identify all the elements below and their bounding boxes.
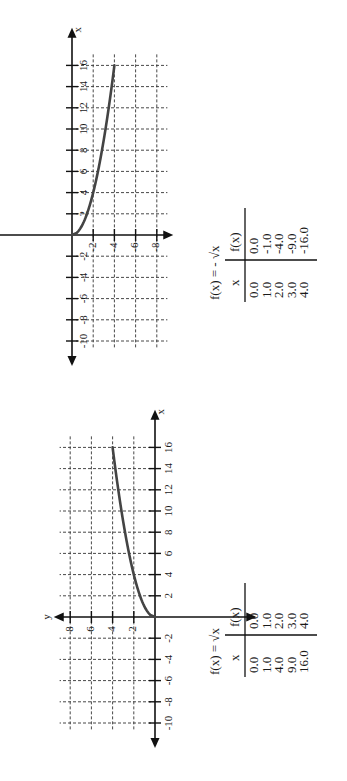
figure-canvas: xy-10-8-6-4-2246810121416-2-4-6-8 xy-10-… <box>0 0 347 781</box>
x-tick-label: 12 <box>77 102 89 113</box>
x-tick-label: 4 <box>162 571 174 577</box>
y-tick-label: -8 <box>149 242 161 252</box>
y-axis-arrow-icon <box>163 231 173 240</box>
x-axis-arrow-icon <box>68 356 77 366</box>
y-tick-label: 6 <box>84 626 96 632</box>
table-cell-fx: 4.0 <box>296 613 311 629</box>
table-cell-x: 16.0 <box>296 650 311 673</box>
equation-label: f(x) = √x <box>207 628 222 675</box>
x-tick-label: -4 <box>162 654 174 664</box>
table-positive-sqrt: f(x) = √xxf(x)0.01.04.09.016.00.01.02.03… <box>207 583 317 677</box>
x-tick-label: 6 <box>77 168 89 174</box>
y-tick-label: 2 <box>126 626 138 632</box>
x-axis-label: x <box>71 26 83 32</box>
x-tick-label: -10 <box>77 333 89 348</box>
y-tick-label: -4 <box>107 242 119 252</box>
x-tick-label: 8 <box>162 529 174 535</box>
y-axis-arrow-icon <box>54 613 64 622</box>
table-negative-sqrt: f(x) = - √xxf(x)0.01.02.03.04.00.0-1.0-4… <box>207 208 317 302</box>
equation-label: f(x) = - √x <box>207 245 222 300</box>
y-tick-label: 4 <box>105 626 117 632</box>
x-tick-label: 10 <box>162 505 174 517</box>
table-header-fx: f(x) <box>227 233 242 253</box>
y-tick-label: -6 <box>128 242 140 252</box>
table-header-fx: f(x) <box>227 608 242 628</box>
x-tick-label: -8 <box>77 315 89 325</box>
chart-positive-sqrt: xy-10-8-6-4-22468101214162468 <box>40 408 257 747</box>
x-tick-label: -4 <box>77 272 89 282</box>
x-tick-label: 14 <box>162 463 174 475</box>
x-tick-label: -6 <box>162 676 174 686</box>
x-tick-label: 6 <box>162 550 174 556</box>
x-axis-label: x <box>154 408 166 414</box>
y-axis-label: y <box>40 614 52 620</box>
x-tick-label: -10 <box>162 715 174 730</box>
x-tick-label: -8 <box>162 697 174 707</box>
x-axis-arrow-icon <box>151 738 160 748</box>
chart-negative-sqrt: xy-10-8-6-4-2246810121416-2-4-6-8 <box>0 26 173 365</box>
x-tick-label: 8 <box>77 147 89 153</box>
x-tick-label: 12 <box>162 484 174 495</box>
y-tick-label: 8 <box>63 626 75 632</box>
table-header-x: x <box>227 279 242 286</box>
x-tick-label: 16 <box>162 441 174 453</box>
table-cell-x: 4.0 <box>296 282 311 298</box>
table-header-x: x <box>227 654 242 661</box>
x-tick-label: 4 <box>77 189 89 195</box>
table-cell-fx: -16.0 <box>296 227 311 254</box>
x-tick-label: 10 <box>77 123 89 135</box>
y-tick-label: -2 <box>86 242 98 251</box>
x-tick-label: 16 <box>77 59 89 71</box>
x-tick-label: -2 <box>77 252 89 261</box>
x-tick-label: 2 <box>162 593 174 599</box>
x-tick-label: -2 <box>162 634 174 643</box>
x-tick-label: 14 <box>77 81 89 93</box>
x-tick-label: -6 <box>77 294 89 304</box>
